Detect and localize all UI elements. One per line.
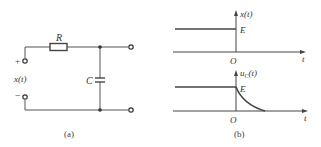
junction-dot-top bbox=[98, 45, 102, 49]
bottom-wire bbox=[25, 100, 128, 110]
rc-circuit: R C x(t) + − (a) bbox=[13, 32, 133, 139]
capacitor-voltage-graph: uC(t) E O t (b) bbox=[173, 68, 308, 139]
input-terminal-minus bbox=[23, 95, 27, 99]
caption-b: (b) bbox=[234, 129, 245, 139]
bottom-origin-label: O bbox=[230, 115, 237, 125]
input-label: x(t) bbox=[13, 74, 27, 84]
resistor-label: R bbox=[55, 32, 62, 43]
top-origin-label: O bbox=[230, 56, 237, 66]
top-level-label: E bbox=[239, 25, 246, 35]
resistor-symbol bbox=[50, 44, 67, 51]
input-signal-graph: x(t) E O t bbox=[173, 9, 306, 66]
top-left-wire bbox=[25, 47, 50, 58]
bottom-level-label: E bbox=[239, 84, 246, 94]
bottom-x-label: t bbox=[304, 113, 307, 123]
bottom-y-axis-arrow-icon bbox=[234, 70, 238, 76]
junction-dot-bottom bbox=[98, 108, 102, 112]
plus-sign: + bbox=[15, 56, 20, 66]
output-terminal-bottom bbox=[129, 108, 133, 112]
bottom-y-label: uC(t) bbox=[240, 68, 257, 79]
minus-sign: − bbox=[15, 90, 21, 101]
output-terminal-top bbox=[129, 45, 133, 49]
input-terminal-plus bbox=[23, 59, 27, 63]
top-y-label: x(t) bbox=[239, 9, 253, 19]
caption-a: (a) bbox=[64, 129, 74, 139]
top-x-label: t bbox=[302, 54, 305, 64]
rc-circuit-figure: R C x(t) + − (a) x(t) E O t uC(t) E O t … bbox=[0, 0, 321, 147]
top-y-axis-arrow-icon bbox=[234, 10, 238, 16]
capacitor-label: C bbox=[86, 75, 93, 86]
